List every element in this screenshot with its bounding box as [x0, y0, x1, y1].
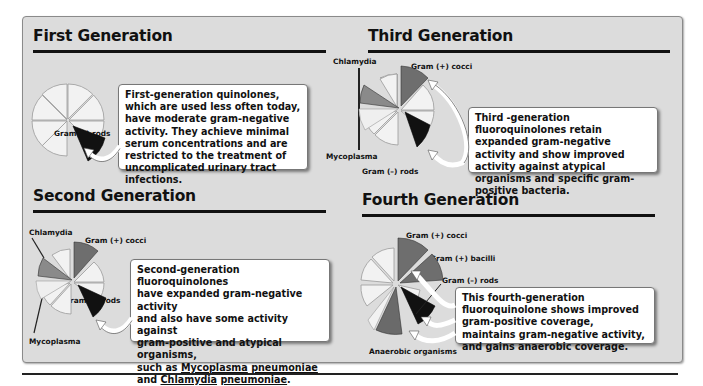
text: . — [287, 374, 291, 385]
callout-line: such as Mycoplasma pneumoniae — [137, 362, 323, 374]
bottom-divider — [22, 373, 678, 375]
label-gram-neg-rods: Gram (–) rods — [54, 129, 110, 138]
callout-line: Second-generation fluoroquinolones — [137, 264, 323, 288]
heading-fourth-generation: Fourth Generation — [362, 191, 519, 209]
label-mycoplasma: Mycoplasma — [326, 152, 378, 161]
organism-name: Chlamydia — [161, 374, 218, 385]
heading-third-generation: Third Generation — [368, 27, 513, 45]
arrow-icon — [92, 312, 142, 344]
callout-second-generation: Second-generation fluoroquinolones have … — [130, 259, 330, 342]
arrow-icon — [405, 265, 465, 350]
heading-first-generation: First Generation — [33, 27, 173, 45]
label-gram-neg-rods: Gram (–) rods — [362, 167, 418, 176]
organism-name: Mycoplasma — [181, 362, 248, 373]
callout-line: have expanded gram-negative activity — [137, 288, 323, 312]
text: and — [137, 374, 161, 385]
heading-rule — [362, 214, 655, 217]
heading-rule — [33, 210, 326, 213]
organism-name: pneumoniae — [220, 374, 287, 385]
label-chlamydia: Chlamydia — [29, 228, 73, 237]
arrow-icon — [80, 140, 140, 180]
callout-first-generation: First-generation quinolones, which are u… — [118, 84, 308, 170]
callout-line: and also have some activity against — [137, 313, 323, 337]
heading-rule — [368, 50, 670, 53]
heading-second-generation: Second Generation — [33, 187, 196, 205]
callout-fourth-generation: This fourth-generation fluoroquinolone s… — [455, 287, 655, 344]
callout-third-generation: Third -generation fluoroquinolones retai… — [468, 107, 658, 173]
callout-line: gram-positive and atypical organisms, — [137, 337, 323, 361]
heading-rule — [33, 50, 326, 53]
arrow-icon — [420, 78, 480, 173]
text: such as — [137, 362, 181, 373]
callout-line: and Chlamydia pneumoniae. — [137, 374, 323, 386]
organism-name: pneumoniae — [251, 362, 318, 373]
